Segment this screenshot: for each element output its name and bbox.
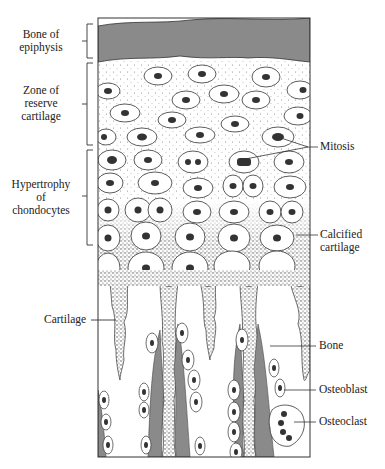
label-osteoblast: Osteoblast [319,383,368,396]
label-osteoclast: Osteoclast [319,415,367,428]
epiphysis-bone [98,18,310,62]
label-calcified-cartilage: Calcified cartilage [320,228,362,254]
label-bone-of-epiphysis: Bone of epiphysis [2,28,80,54]
label-zone-of-reserve-cartilage: Zone of reserve cartilage [2,84,80,123]
label-hypertrophy-of-chondocytes: Hypertrophy of chondocytes [0,178,82,217]
label-bone: Bone [319,339,343,352]
label-mitosis: Mitosis [320,140,355,153]
label-cartilage: Cartilage [44,313,86,326]
